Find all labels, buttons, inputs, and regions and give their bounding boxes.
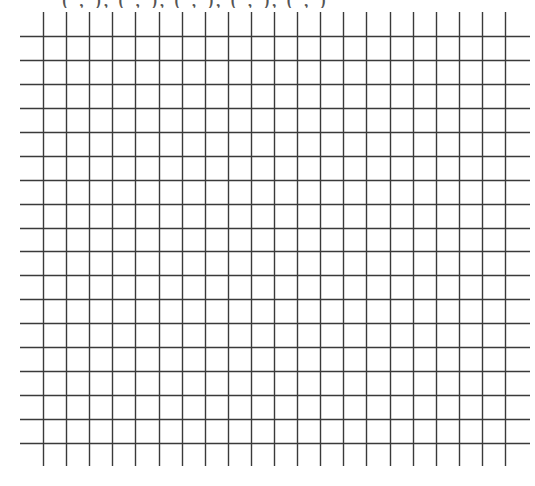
graph-paper-grid [0, 0, 535, 486]
